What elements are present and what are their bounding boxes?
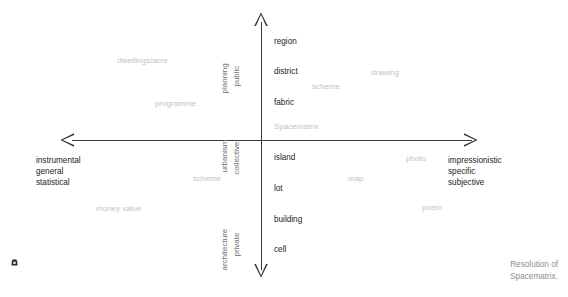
example-term: money value [96, 204, 141, 215]
publisher-logo-icon [10, 258, 19, 267]
pole-right-line-3: subjective [448, 178, 502, 189]
example-term: dwellings/acre [117, 56, 168, 67]
axis-label-planning: planning [220, 63, 231, 93]
pole-left-line-2: general [36, 167, 81, 178]
axis-label-private: private [232, 233, 243, 257]
pole-left-line-1: instrumental [36, 156, 81, 167]
scale-term: region [274, 37, 297, 48]
scale-term: lot [274, 184, 283, 195]
example-term: poem [422, 203, 442, 214]
vertical-axis-line [261, 22, 262, 270]
example-term: map [348, 174, 364, 185]
axis-label-collective: collective [232, 142, 243, 175]
scale-term: district [274, 67, 298, 78]
caption-line-2: Spacematrix. [510, 271, 558, 283]
scale-term: cell [274, 245, 286, 256]
figure-caption: Resolution of Spacematrix. [510, 259, 558, 283]
scale-term: island [274, 153, 295, 164]
pole-right-line-1: impressionistic [448, 156, 502, 167]
axis-label-urbanism: urbanism [220, 140, 231, 173]
example-term: scheme [193, 174, 221, 185]
diagram-canvas: planning public urbanism collective arch… [0, 0, 568, 297]
example-term: scheme [312, 82, 340, 93]
example-term: photo [406, 154, 426, 165]
horizontal-axis-line [72, 140, 472, 141]
pole-left: instrumental general statistical [36, 156, 81, 188]
scale-term: building [274, 215, 302, 226]
scale-term: fabric [274, 98, 294, 109]
axis-label-architecture: architecture [220, 229, 231, 271]
example-term: programme [155, 99, 196, 110]
axis-label-public: public [232, 66, 243, 87]
example-term: drawing [371, 68, 399, 79]
caption-line-1: Resolution of [510, 259, 558, 271]
pole-left-line-3: statistical [36, 178, 81, 189]
scale-term-spacematrix: Spacematrix [274, 122, 318, 133]
pole-right: impressionistic specific subjective [448, 156, 502, 188]
pole-right-line-2: specific [448, 167, 502, 178]
